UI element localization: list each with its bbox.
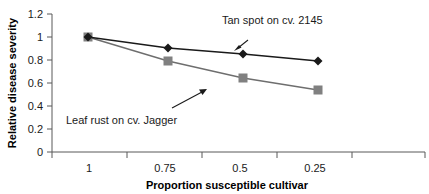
- y-tick-label-3: 0.6: [28, 77, 43, 89]
- data-point-marker: [314, 86, 323, 95]
- annotation-label-tan-spot: Tan spot on cv. 2145: [222, 14, 323, 26]
- x-axis-title: Proportion susceptible cultivar: [146, 179, 309, 191]
- x-tick-label-2: 0.5: [232, 162, 247, 174]
- data-point-marker: [314, 57, 323, 66]
- y-tick-label-0: 0: [37, 146, 43, 158]
- y-tick-label-4: 0.8: [28, 54, 43, 66]
- annotation-arrow-tan-spot: [234, 40, 248, 51]
- y-axis-title: Relative disease severity: [6, 17, 18, 148]
- series-markers-tan-spot: [84, 33, 323, 66]
- annotation-arrow-leaf-rust: [172, 89, 207, 108]
- data-point-marker: [239, 50, 248, 59]
- y-tick-label-1: 0.2: [28, 123, 43, 135]
- y-axis-ticks: [47, 14, 52, 152]
- chart-canvas: 0 0.2 0.4 0.6 0.8 1 1.2 1 0.75 0.5 0.25 …: [0, 0, 429, 194]
- x-axis-ticks: [52, 152, 425, 158]
- data-point-marker: [164, 57, 173, 66]
- x-tick-label-1: 0.75: [154, 162, 175, 174]
- data-point-marker: [164, 44, 173, 53]
- x-tick-label-3: 0.25: [304, 162, 325, 174]
- data-point-marker: [239, 74, 248, 83]
- y-tick-label-6: 1.2: [28, 8, 43, 20]
- y-tick-label-5: 1: [37, 31, 43, 43]
- y-tick-label-2: 0.4: [28, 100, 43, 112]
- series-line-leaf-rust: [88, 37, 318, 90]
- annotation-label-leaf-rust: Leaf rust on cv. Jagger: [66, 114, 177, 126]
- series-line-tan-spot: [88, 37, 318, 61]
- chart-figure: 0 0.2 0.4 0.6 0.8 1 1.2 1 0.75 0.5 0.25 …: [0, 0, 429, 194]
- x-tick-label-0: 1: [86, 162, 92, 174]
